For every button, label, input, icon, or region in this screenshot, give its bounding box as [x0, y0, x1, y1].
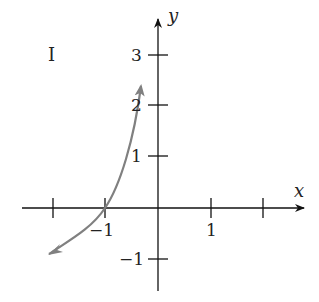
y-tick-label-3: 3: [131, 47, 142, 64]
y-tick-label-1: 1: [131, 148, 142, 165]
x-tick-label-1: 1: [206, 222, 217, 239]
panel-label: I: [48, 46, 55, 64]
x-tick-label-neg1: −1: [89, 222, 114, 239]
graph-figure: I y x 3 2 1 −1 −1 1: [0, 0, 319, 302]
y-tick-label-2: 2: [131, 97, 142, 114]
x-axis-label: x: [294, 182, 304, 200]
y-axis-label: y: [168, 7, 178, 25]
y-tick-label-neg1: −1: [119, 251, 144, 268]
